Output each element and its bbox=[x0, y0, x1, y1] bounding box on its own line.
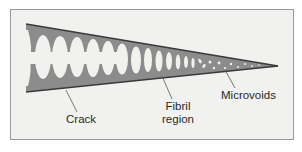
crack-opening bbox=[27, 52, 123, 64]
fibril-leader-line bbox=[162, 76, 172, 99]
crack-leader-line bbox=[66, 90, 77, 112]
label-microvoids: Microvoids bbox=[221, 89, 276, 102]
craze-wedge-diagram bbox=[0, 0, 302, 152]
label-fibril-line2: region bbox=[161, 113, 195, 126]
label-crack: Crack bbox=[66, 113, 96, 126]
label-fibril-line1: Fibril bbox=[161, 100, 195, 113]
label-fibril-region: Fibril region bbox=[161, 100, 195, 126]
microvoids-leader-line bbox=[225, 70, 235, 88]
